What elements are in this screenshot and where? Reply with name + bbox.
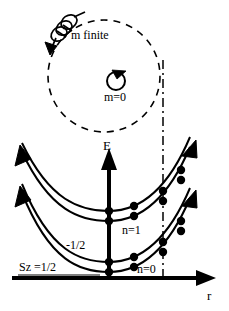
marker-axis-n0-down <box>105 258 113 266</box>
annotation-spin-down: -1/2 <box>66 239 85 251</box>
marker-n1-down-rc <box>159 187 167 195</box>
energy-level-diagram: m finite m=0 E r n=1 n=0 -1/2 Sz =1/2 <box>0 0 229 311</box>
curve-arrowhead-left-lower <box>15 186 31 207</box>
marker-axis-n0-up <box>105 268 113 276</box>
radius-axis-label: r <box>207 289 211 302</box>
marker-n1-up-m1 <box>130 212 138 220</box>
marker-n0-up-outer <box>177 227 185 235</box>
marker-n1-up-outer <box>177 176 185 184</box>
marker-axis-n1-up <box>105 217 113 225</box>
annotation-spin-up: Sz =1/2 <box>19 261 56 273</box>
annotation-m-finite: m finite <box>71 29 109 41</box>
marker-n0-down-rc <box>159 238 167 246</box>
marker-n0-down-outer <box>177 217 185 225</box>
marker-n0-up-rc <box>159 248 167 256</box>
marker-n1-up-rc <box>159 197 167 205</box>
marker-n1-down-m1 <box>130 202 138 210</box>
right-arrow-icon <box>196 270 216 286</box>
annotation-m-zero: m=0 <box>104 91 126 103</box>
marker-n1-down-outer <box>177 166 185 174</box>
annotation-level-n0: n=0 <box>137 263 156 275</box>
marker-axis-n1-down <box>105 207 113 215</box>
marker-n0-down-m1 <box>130 253 138 261</box>
spiral-arrowhead-icon <box>45 42 57 55</box>
annotation-level-n1: n=1 <box>122 224 141 236</box>
energy-axis-label: E <box>103 139 111 152</box>
